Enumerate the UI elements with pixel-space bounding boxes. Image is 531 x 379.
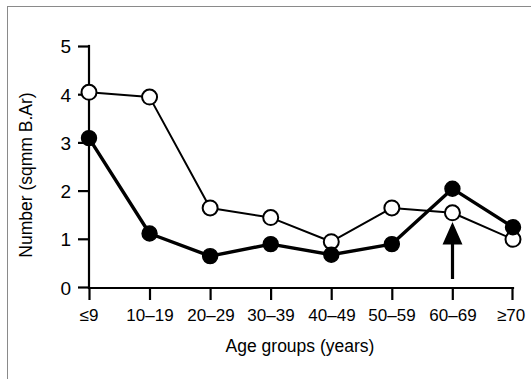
x-category-label-0: ≤9 xyxy=(80,306,99,325)
y-tick-label-1: 1 xyxy=(60,229,71,250)
x-category-label-2: 20–29 xyxy=(187,306,234,325)
data-point-filled-0 xyxy=(82,131,97,146)
data-point-filled-7 xyxy=(506,220,521,235)
figure-container: 5 4 3 2 1 0 Number (sqmm B.Ar) xyxy=(0,0,531,379)
y-axis: 5 4 3 2 1 0 Number (sqmm B.Ar) xyxy=(16,36,89,299)
data-point-open-5 xyxy=(384,200,399,215)
x-category-label-1: 10–19 xyxy=(126,306,173,325)
data-point-filled-1 xyxy=(142,226,157,241)
y-axis-tick-labels: 5 4 3 2 1 0 xyxy=(60,36,71,299)
series-open-circle xyxy=(82,85,521,249)
x-category-label-7: ≥70 xyxy=(497,306,525,325)
data-point-open-0 xyxy=(82,85,97,100)
y-tick-label-3: 3 xyxy=(60,133,71,154)
data-point-open-3 xyxy=(263,210,278,225)
line-chart: 5 4 3 2 1 0 Number (sqmm B.Ar) xyxy=(0,0,531,379)
data-point-filled-6 xyxy=(445,181,460,196)
x-axis-category-labels: ≤9 10–19 20–29 30–39 40–49 50–59 60–69 ≥… xyxy=(80,306,526,325)
y-axis-title: Number (sqmm B.Ar) xyxy=(16,92,36,257)
data-point-open-2 xyxy=(203,200,218,215)
data-point-filled-3 xyxy=(263,237,278,252)
annotation-arrow-icon xyxy=(445,226,460,279)
y-tick-label-2: 2 xyxy=(60,181,71,202)
x-category-label-6: 60–69 xyxy=(429,306,476,325)
data-point-open-1 xyxy=(142,90,157,105)
x-axis-ticks xyxy=(90,288,513,300)
y-axis-ticks xyxy=(78,47,89,288)
x-category-label-3: 30–39 xyxy=(247,306,294,325)
x-axis: ≤9 10–19 20–29 30–39 40–49 50–59 60–69 ≥… xyxy=(80,288,526,356)
x-category-label-4: 40–49 xyxy=(308,306,355,325)
x-axis-title: Age groups (years) xyxy=(226,336,375,356)
data-point-filled-4 xyxy=(324,247,339,262)
y-tick-label-4: 4 xyxy=(60,85,71,106)
data-point-filled-2 xyxy=(203,249,218,264)
x-category-label-5: 50–59 xyxy=(368,306,415,325)
y-tick-label-0: 0 xyxy=(60,278,71,299)
data-point-filled-5 xyxy=(384,237,399,252)
data-point-open-6 xyxy=(445,205,460,220)
y-tick-label-5: 5 xyxy=(60,36,71,57)
